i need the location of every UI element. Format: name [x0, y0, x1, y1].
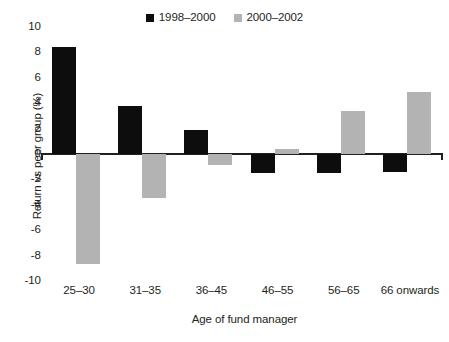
bar-group: 36–45 — [178, 27, 244, 281]
bar-series-b — [76, 154, 100, 264]
bar-series-a — [383, 154, 407, 172]
bar-series-b — [275, 149, 299, 154]
plot-area: 1086420-2-4-6-8-1025–3031–3536–4546–5556… — [46, 27, 443, 281]
y-tick-label: 6 — [35, 72, 41, 84]
y-tick-label: 0 — [35, 148, 41, 160]
y-tick-label: -4 — [31, 199, 41, 211]
x-tick-label: 66 onwards — [377, 285, 443, 297]
bar-series-b — [407, 92, 431, 154]
x-tick-label: 25–30 — [46, 285, 112, 297]
bar-group: 56–65 — [311, 27, 377, 281]
legend-label: 2000–2002 — [247, 12, 304, 24]
x-tick-label: 56–65 — [311, 285, 377, 297]
square-swatch-icon — [146, 14, 154, 22]
y-tick-label: 10 — [28, 21, 41, 33]
bar-series-a — [317, 154, 341, 173]
legend-label: 1998–2000 — [159, 12, 216, 24]
y-tick-label: -10 — [24, 275, 41, 287]
bar-series-a — [251, 154, 275, 173]
bar-series-a — [118, 106, 142, 154]
bar-series-a — [52, 47, 76, 154]
bar-group: 25–30 — [46, 27, 112, 281]
bar-series-b — [208, 154, 232, 165]
bar-group: 66 onwards — [377, 27, 443, 281]
chart-legend: 1998–20002000–2002 — [0, 12, 449, 24]
bar-series-a — [184, 130, 208, 154]
x-tick-label: 46–55 — [245, 285, 311, 297]
x-axis-title: Age of fund manager — [46, 313, 443, 325]
bar-group: 46–55 — [245, 27, 311, 281]
bar-series-b — [341, 111, 365, 154]
x-tick-label: 31–35 — [112, 285, 178, 297]
bar-series-b — [142, 154, 166, 198]
y-tick-label: 4 — [35, 97, 41, 109]
legend-item: 1998–2000 — [146, 12, 216, 24]
y-tick-label: 8 — [35, 47, 41, 59]
bar-group: 31–35 — [112, 27, 178, 281]
axis-endcap-left — [41, 155, 43, 160]
square-swatch-icon — [234, 14, 242, 22]
bar-chart: 1998–20002000–2002 Return vs peer group … — [0, 0, 449, 342]
x-tick-label: 36–45 — [178, 285, 244, 297]
y-tick-label: -8 — [31, 250, 41, 262]
y-tick-label: 2 — [35, 123, 41, 135]
y-tick-label: -6 — [31, 224, 41, 236]
legend-item: 2000–2002 — [234, 12, 304, 24]
y-tick-label: -2 — [31, 174, 41, 186]
